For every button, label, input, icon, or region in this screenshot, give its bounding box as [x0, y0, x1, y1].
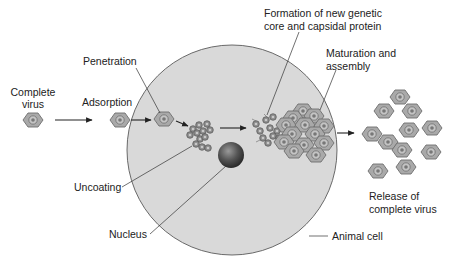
- released-viruses-icon: [362, 90, 442, 178]
- nucleus-label: Nucleus: [109, 228, 147, 240]
- maturation-label: Maturation and: [326, 47, 396, 59]
- complete-virus-label: Complete: [11, 86, 56, 98]
- penetration-label: Penetration: [83, 55, 137, 67]
- nucleus-icon: [218, 142, 244, 168]
- maturation-leader: [320, 70, 336, 110]
- complete-virus-icon: [23, 113, 43, 127]
- animal-cell-label: Animal cell: [332, 230, 383, 242]
- maturation-label: assembly: [326, 60, 371, 72]
- adsorption-virus-icon: [110, 113, 130, 127]
- complete-virus-label: virus: [22, 98, 44, 110]
- penetration-virus-icon: [154, 112, 174, 126]
- release-label: Release of: [369, 190, 419, 202]
- viral-replication-diagram: Complete virus Adsorption Penetration Un…: [0, 0, 456, 268]
- adsorption-label: Adsorption: [82, 96, 132, 108]
- uncoating-label: Uncoating: [74, 181, 121, 193]
- release-label: complete virus: [369, 203, 437, 215]
- formation-label: Formation of new genetic: [264, 7, 382, 19]
- formation-label: core and capsidal protein: [264, 20, 381, 32]
